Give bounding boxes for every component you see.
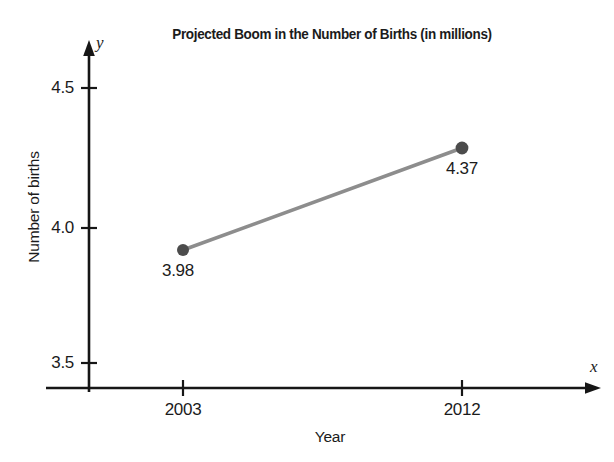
x-axis-letter: x xyxy=(590,357,598,377)
plot-area xyxy=(0,0,614,462)
y-tick-label-3-5: 3.5 xyxy=(22,353,74,373)
x-tick-label-2012: 2012 xyxy=(427,400,497,420)
y-tick-label-4-5: 4.5 xyxy=(22,78,74,98)
data-point-2012 xyxy=(456,142,469,155)
y-axis-title: Number of births xyxy=(25,127,43,287)
x-axis-arrowhead xyxy=(585,382,601,394)
chart-figure: · · · · · · · · · · Projected Boom in th… xyxy=(0,0,614,462)
data-label-2012: 4.37 xyxy=(446,159,478,179)
data-label-2003: 3.98 xyxy=(162,261,194,281)
y-axis-arrowhead xyxy=(83,40,95,56)
x-axis-title: Year xyxy=(265,428,395,446)
y-axis-letter: y xyxy=(96,33,104,53)
data-line-segment xyxy=(183,148,462,250)
data-point-2003 xyxy=(177,244,189,256)
x-tick-label-2003: 2003 xyxy=(148,400,218,420)
